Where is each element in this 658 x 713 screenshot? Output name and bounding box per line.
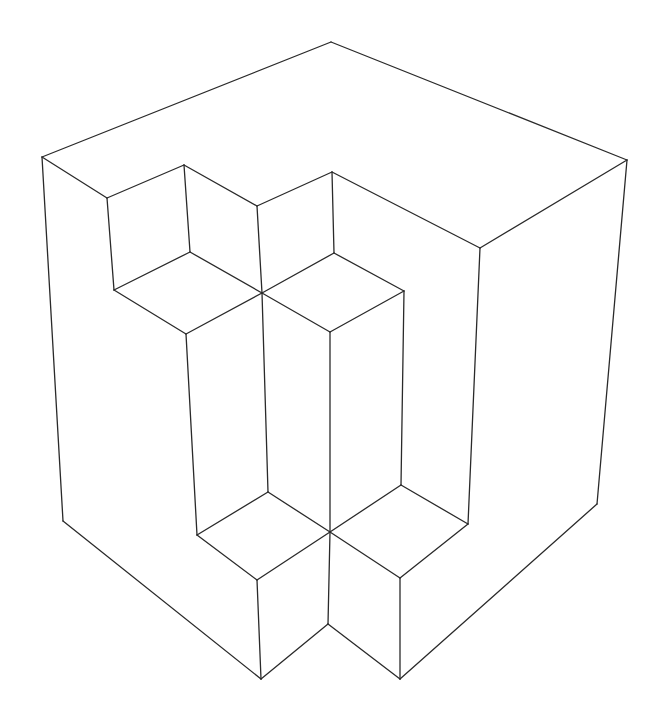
edge-line	[262, 293, 330, 332]
edge-line	[400, 504, 597, 679]
edge-line	[107, 198, 114, 290]
edge-line	[114, 290, 186, 334]
edge-line	[42, 157, 107, 198]
edge-line	[332, 172, 334, 253]
edge-line	[401, 485, 468, 524]
edge-line	[334, 253, 404, 291]
edge-line	[184, 165, 190, 252]
edge-line	[190, 252, 262, 293]
cube-edges	[42, 42, 627, 679]
edge-line	[42, 42, 331, 157]
edge-line	[42, 157, 63, 521]
notched-cube-diagram	[0, 0, 658, 713]
edge-line	[63, 521, 261, 679]
edge-line	[400, 524, 468, 578]
edge-line	[330, 532, 400, 578]
edge-line	[186, 293, 262, 334]
edge-line	[197, 492, 268, 535]
edge-line	[262, 253, 334, 293]
edge-line	[186, 334, 197, 535]
edge-line	[257, 532, 330, 580]
edge-line	[480, 160, 627, 248]
edge-line	[330, 485, 401, 532]
edge-line	[597, 160, 627, 504]
edge-line	[261, 624, 328, 679]
edge-line	[328, 532, 330, 624]
edge-line	[197, 535, 257, 580]
edge-line	[114, 252, 190, 290]
edge-line	[268, 492, 330, 532]
edge-line	[331, 42, 627, 160]
edge-line	[107, 165, 184, 198]
edge-line	[257, 580, 261, 679]
edge-line	[257, 206, 262, 293]
edge-line	[184, 165, 257, 206]
edge-line	[468, 248, 480, 524]
edge-line	[257, 172, 332, 206]
edge-line	[328, 624, 400, 679]
edge-line	[262, 293, 268, 492]
edge-line	[401, 291, 404, 485]
edge-line	[332, 172, 480, 248]
edge-line	[330, 291, 404, 332]
